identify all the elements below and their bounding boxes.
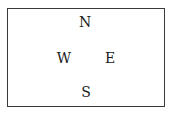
north-label: N [79,15,91,29]
east-label: E [105,51,115,65]
south-label: S [81,85,91,99]
west-label: W [57,51,71,65]
